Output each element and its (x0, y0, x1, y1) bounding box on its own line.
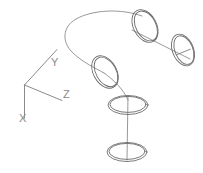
sweep-arc-upper (65, 11, 142, 73)
sweep-path-group (65, 11, 190, 160)
wireframe-viewport[interactable]: Y Z X (0, 0, 203, 173)
profile-circle-2[interactable] (167, 31, 199, 69)
drawing-canvas[interactable]: Y Z X (0, 0, 203, 173)
profile-circle-3[interactable] (86, 51, 123, 93)
profile-circle-2-inner (170, 33, 198, 68)
axis-label-y: Y (51, 56, 59, 68)
profile-circle-1[interactable] (127, 5, 164, 47)
ucs-axis-triad: Y Z X (19, 50, 70, 125)
axis-line-4-to-5 (127, 96, 128, 160)
axis-label-x: X (19, 112, 27, 124)
profile-circle-3-outer (86, 51, 123, 93)
profile-circle-2-center-mark (176, 49, 190, 55)
axis-label-z: Z (63, 88, 70, 100)
axis-line-z (25, 85, 63, 101)
